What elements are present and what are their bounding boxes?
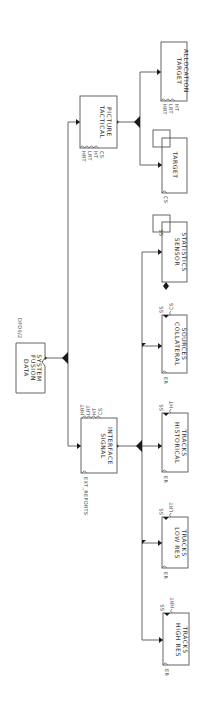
node-collateral-sources[interactable]: COLLATERAL SOURCES SS CS ER: [158, 303, 188, 385]
diamond-marker-icon: [163, 282, 169, 290]
port-label: HRT: [81, 151, 87, 162]
junction-triangle-icon: [62, 352, 68, 364]
port-label: ER: [163, 476, 169, 483]
node-label-line: TACTICAL: [99, 104, 106, 138]
port-label: LRT: [168, 502, 174, 512]
port-label: SS: [158, 404, 164, 411]
node-low-res-tracks[interactable]: LOW RES TRACKS SS LRT ER: [158, 502, 188, 580]
port-label: SS: [158, 508, 164, 515]
node-tactical-picture[interactable]: TACTICAL PICTURE HRT LRT HT CS: [80, 96, 117, 162]
arrow-right-icon: [158, 540, 162, 546]
port-label: SS: [158, 306, 164, 313]
node-label-line: PICTURE: [106, 107, 113, 137]
port-label: SS: [159, 604, 165, 611]
node-label-line: HIGH RES: [175, 623, 182, 657]
node-label-line: SOURCES: [181, 328, 188, 361]
arrow-right-icon: [158, 249, 162, 255]
port-label: CS: [97, 408, 103, 415]
node-sensor-statistics[interactable]: SENSOR STATISTICS SS: [153, 215, 188, 282]
node-label-line: DATA: [23, 359, 30, 377]
port-label: HRT: [162, 104, 168, 115]
arrow-right-icon: [158, 343, 162, 349]
port-label: CS: [168, 303, 174, 310]
node-signal-interface[interactable]: SIGNAL INTERFACE HRT LRT HT CS EXT_REPOR…: [79, 404, 117, 516]
node-label-line: COLLATERAL: [174, 322, 181, 366]
node-label-line: TRACKS: [181, 528, 188, 556]
node-label-line: TRACKS: [181, 428, 188, 456]
junction-triangle-icon: [134, 116, 140, 128]
diagram-title: DFD0/2: [17, 318, 23, 338]
node-historical-tracks[interactable]: HISTORICAL TRACKS SS HT ER: [158, 400, 188, 484]
port-label: CS: [99, 151, 105, 158]
port-label: HT: [174, 104, 180, 112]
arrow-right-icon: [159, 637, 163, 643]
arrow-right-icon: [158, 162, 162, 168]
junction-markers: [43, 69, 169, 643]
node-target-allocation[interactable]: TARGET ALLOCATION HRT LRT HT: [161, 42, 190, 115]
junction-triangle-icon: [136, 440, 142, 452]
port-label: LRT: [168, 104, 174, 114]
port-label: ER: [163, 572, 169, 579]
port-label: EXT_REPORTS: [82, 477, 89, 515]
arrow-right-icon: [77, 443, 81, 449]
node-high-res-tracks[interactable]: HIGH RES TRACKS SS HRT ER: [159, 597, 189, 677]
node-label-line: HISTORICAL: [174, 422, 181, 464]
port-label: ER: [164, 669, 170, 676]
arrow-right-icon: [76, 119, 80, 125]
node-label-line: SYSTEM: [36, 354, 43, 382]
port-label: HRT: [169, 597, 175, 608]
node-label-line: TRACKS: [182, 625, 189, 653]
port-label: ER: [163, 377, 169, 384]
node-label-line: LOW RES: [174, 527, 181, 559]
node-label-line: ALLOCATION: [183, 49, 190, 93]
node-label-line: INTERFACE: [107, 427, 114, 465]
port-label: CS: [163, 196, 169, 203]
node-label-line: FUSION: [30, 355, 37, 381]
port-label: SS: [158, 229, 164, 236]
stacked-store-square: [153, 130, 170, 147]
node-label-line: SENSOR: [174, 238, 181, 266]
node-label-line: TARGET: [172, 150, 179, 178]
arrow-right-icon: [157, 69, 161, 75]
node-data-fusion-system[interactable]: DATA FUSION SYSTEM: [16, 343, 45, 393]
arrow-right-icon: [158, 443, 162, 449]
port-label: LRT: [87, 151, 93, 161]
port-label: HT: [93, 151, 99, 159]
port-label: HT: [168, 400, 174, 408]
node-label-line: STATISTICS: [181, 232, 188, 271]
node-label-line: SIGNAL: [100, 433, 107, 459]
node-label-line: TARGET: [176, 56, 183, 84]
